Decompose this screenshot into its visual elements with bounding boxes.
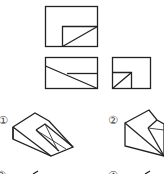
top-view bbox=[46, 58, 98, 89]
option-2-label: ② bbox=[108, 114, 118, 127]
option-1-label: ① bbox=[0, 114, 8, 127]
option-3-partial: ③ bbox=[0, 169, 38, 174]
option-4-partial: ④ bbox=[108, 169, 150, 174]
front-view bbox=[46, 7, 98, 47]
option-2-figure[interactable]: ② bbox=[108, 110, 164, 156]
side-view bbox=[113, 58, 151, 89]
three-view-diagram: ① ② ③ ④ bbox=[0, 0, 164, 174]
option-1-figure[interactable]: ① bbox=[0, 113, 73, 156]
option-3-label: ③ bbox=[0, 169, 6, 174]
option-4-label: ④ bbox=[108, 169, 118, 174]
